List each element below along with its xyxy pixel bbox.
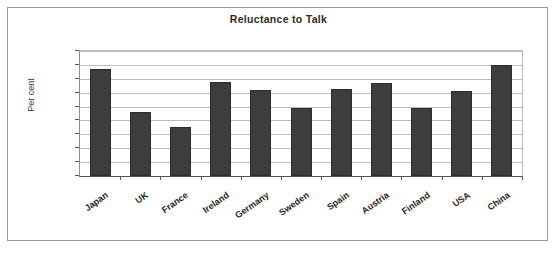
gridline bbox=[80, 65, 522, 66]
y-axis-title: Per cent bbox=[26, 60, 36, 130]
y-tick-mark bbox=[75, 106, 79, 107]
bar-finland bbox=[411, 108, 432, 176]
x-tick-mark bbox=[482, 176, 483, 180]
y-tick-mark bbox=[75, 175, 79, 176]
bar-spain bbox=[331, 89, 352, 177]
x-tick-mark bbox=[321, 176, 322, 180]
y-tick-mark bbox=[75, 64, 79, 65]
bar-china bbox=[491, 65, 512, 176]
plot-area bbox=[79, 50, 523, 177]
gridline bbox=[80, 51, 522, 52]
x-tick-mark bbox=[160, 176, 161, 180]
x-tick-mark bbox=[522, 176, 523, 180]
x-tick-mark bbox=[361, 176, 362, 180]
chart-title: Reluctance to Talk bbox=[0, 13, 557, 25]
x-tick-mark bbox=[241, 176, 242, 180]
bar-austria bbox=[371, 83, 392, 176]
bar-japan bbox=[90, 69, 111, 176]
y-tick-mark bbox=[75, 119, 79, 120]
gridline bbox=[80, 79, 522, 80]
x-tick-mark bbox=[281, 176, 282, 180]
chart-figure: Reluctance to Talk Per cent 908070605040… bbox=[0, 0, 557, 256]
bar-ireland bbox=[210, 82, 231, 176]
y-tick-mark bbox=[75, 161, 79, 162]
bar-germany bbox=[250, 90, 271, 176]
y-tick-mark bbox=[75, 78, 79, 79]
bar-uk bbox=[130, 112, 151, 176]
x-tick-mark bbox=[201, 176, 202, 180]
y-tick-mark bbox=[75, 50, 79, 51]
x-tick-mark bbox=[120, 176, 121, 180]
y-tick-mark bbox=[75, 133, 79, 134]
y-tick-mark bbox=[75, 92, 79, 93]
bar-sweden bbox=[291, 108, 312, 176]
x-tick-mark bbox=[401, 176, 402, 180]
x-tick-mark bbox=[442, 176, 443, 180]
bar-usa bbox=[451, 91, 472, 176]
bar-france bbox=[170, 127, 191, 176]
y-tick-mark bbox=[75, 147, 79, 148]
